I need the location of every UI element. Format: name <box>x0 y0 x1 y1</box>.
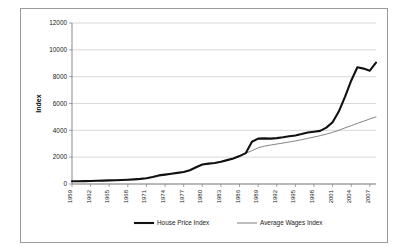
legend-label: Average Wages Index <box>260 219 323 227</box>
y-tick-label: 0 <box>63 180 67 187</box>
series-line-average-wages-index <box>72 117 376 182</box>
chart-figure: 020004000600080001000012000 195919621965… <box>0 0 406 252</box>
x-tick-label: 1995 <box>290 189 296 203</box>
x-tick-label: 1998 <box>309 189 315 203</box>
y-tick-label: 12000 <box>49 19 67 26</box>
x-axis-ticks: 1959196219651968197119741977198019831986… <box>67 184 371 203</box>
x-tick-label: 1974 <box>160 189 166 203</box>
x-tick-label: 1959 <box>67 189 73 203</box>
x-tick-label: 2004 <box>346 189 352 203</box>
chart-border-frame: 020004000600080001000012000 195919621965… <box>20 8 388 243</box>
x-tick-label: 2007 <box>365 189 371 203</box>
y-tick-label: 2000 <box>53 153 68 160</box>
y-axis-title: Index <box>35 94 42 112</box>
legend-label: House Price Index <box>157 219 210 226</box>
y-tick-label: 6000 <box>53 100 68 107</box>
x-tick-label: 1980 <box>197 189 203 203</box>
x-tick-label: 1971 <box>141 189 147 203</box>
x-tick-label: 1983 <box>216 189 222 203</box>
x-tick-label: 1989 <box>253 189 259 203</box>
y-tick-label: 4000 <box>53 127 68 134</box>
x-tick-label: 1962 <box>86 189 92 203</box>
x-tick-label: 2001 <box>328 189 334 203</box>
y-tick-label: 8000 <box>53 73 68 80</box>
x-tick-label: 1968 <box>123 189 129 203</box>
x-tick-label: 1977 <box>179 189 185 203</box>
x-tick-label: 1992 <box>272 189 278 203</box>
y-tick-label: 10000 <box>49 46 67 53</box>
series-line-house-price-index <box>72 63 376 182</box>
x-tick-label: 1965 <box>104 189 110 203</box>
line-chart-canvas: 020004000600080001000012000 195919621965… <box>21 9 387 242</box>
x-tick-label: 1986 <box>235 189 241 203</box>
y-axis-ticks: 020004000600080001000012000 <box>49 19 72 187</box>
chart-legend: House Price IndexAverage Wages Index <box>134 219 323 227</box>
